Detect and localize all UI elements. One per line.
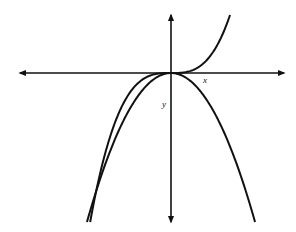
- cubic-curve: [90, 15, 230, 222]
- y-axis-label: y: [162, 100, 166, 109]
- x-axis-label: x: [203, 76, 207, 85]
- graph-canvas: [0, 0, 296, 232]
